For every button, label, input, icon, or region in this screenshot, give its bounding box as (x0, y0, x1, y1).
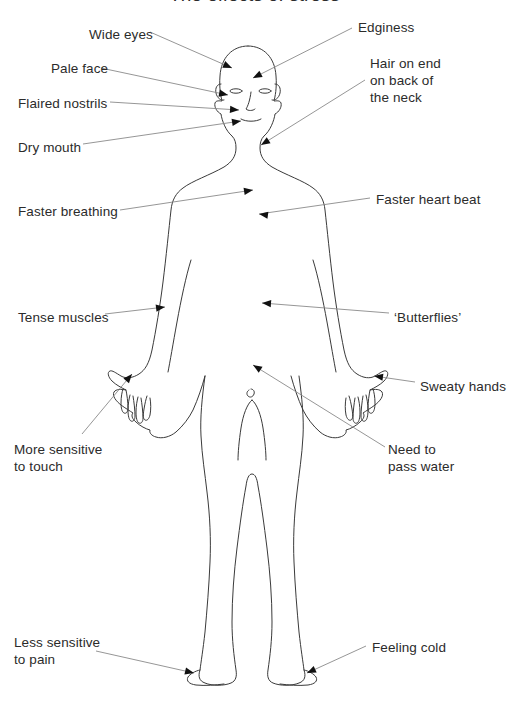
label-more-sensitive-to-touch: More sensitive to touch (14, 441, 102, 475)
leader-flaired-nostrils (110, 102, 239, 110)
label-tense-muscles: Tense muscles (18, 309, 109, 326)
label-less-sensitive-to-pain: Less sensitive to pain (14, 634, 100, 668)
arrowhead-faster-breathing (244, 186, 254, 195)
arrowhead-wide-eyes (222, 61, 233, 71)
label-pale-face: Pale face (51, 60, 108, 77)
leader-faster-breathing (120, 190, 253, 210)
arrowhead-flaired-nostrils (230, 106, 239, 114)
label-hair-on-end: Hair on end on back of the neck (370, 55, 441, 106)
leader-pale-face (101, 68, 228, 95)
leader-wide-eyes (150, 32, 232, 68)
facial-features (216, 84, 281, 121)
label-dry-mouth: Dry mouth (18, 139, 81, 156)
torso-and-legs (199, 376, 305, 685)
label-edginess: Edginess (358, 19, 414, 36)
leader-tense-muscles (105, 307, 165, 314)
leader-feeling-cold (307, 646, 366, 673)
mouth (241, 119, 261, 121)
crotch-line (238, 400, 266, 460)
leader-lines (82, 28, 415, 673)
arrowhead-pale-face (218, 90, 228, 99)
right-eye (259, 89, 271, 93)
arrowhead-need-to-pass-water (251, 362, 262, 373)
leader-less-sensitive-to-pain (96, 651, 194, 673)
arrowhead-tense-muscles (156, 303, 166, 311)
arrowhead-dry-mouth (232, 117, 242, 126)
label-sweaty-hands: Sweaty hands (420, 378, 506, 395)
fingers-left (121, 389, 151, 423)
navel (247, 389, 254, 397)
arrowhead-edginess (251, 71, 262, 82)
leader-arrowheads (123, 61, 383, 676)
nose (246, 92, 255, 111)
label-need-to-pass-water: Need to pass water (388, 441, 454, 475)
stress-effects-diagram: The effects of stress (0, 0, 509, 706)
label-faster-breathing: Faster breathing (18, 203, 118, 220)
arrowhead-butterflies (262, 299, 271, 307)
leader-edginess (253, 28, 352, 78)
label-wide-eyes: Wide eyes (89, 26, 153, 43)
left-eye (230, 89, 242, 93)
label-butterflies: ‘Butterflies’ (394, 309, 461, 326)
body-outline-right (248, 46, 388, 438)
leader-more-sensitive-to-touch (82, 374, 132, 434)
leader-faster-heart-beat (259, 198, 370, 214)
inner-arm-lines (168, 260, 336, 372)
feet (187, 670, 316, 685)
arrowhead-faster-heart-beat (258, 210, 268, 218)
leader-dry-mouth (83, 121, 241, 144)
fingers-right (345, 389, 375, 423)
label-feeling-cold: Feeling cold (372, 639, 446, 656)
label-flaired-nostrils: Flaired nostrils (18, 95, 107, 112)
label-faster-heart-beat: Faster heart beat (376, 191, 481, 208)
